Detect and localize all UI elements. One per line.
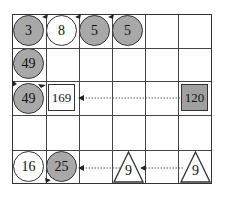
arrow-head-icon <box>42 14 48 19</box>
arrow-head-icon <box>108 14 114 19</box>
arrow-head-icon <box>38 84 46 88</box>
arrow-head-icon <box>75 14 81 19</box>
arrow-head-icon <box>45 178 51 183</box>
arrow-head-icon <box>12 80 17 87</box>
arrows-layer <box>0 0 228 198</box>
